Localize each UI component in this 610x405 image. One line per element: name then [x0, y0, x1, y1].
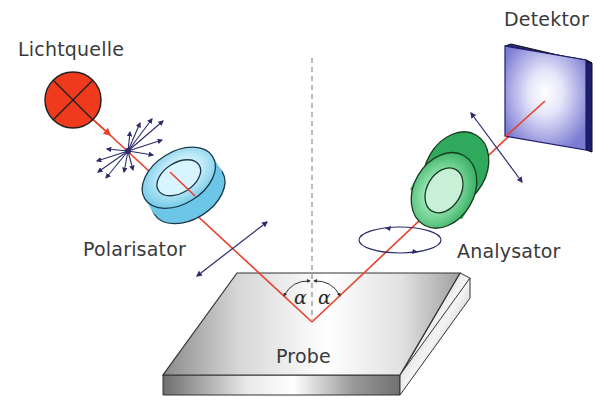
light-source-label: Lichtquelle	[18, 38, 124, 60]
analyzer-label: Analysator	[457, 240, 561, 262]
linear-polarization-arrow	[197, 222, 267, 276]
ellipsometry-diagram: Lichtquelle Polarisator Analysator Detek…	[0, 0, 610, 405]
sample-slab	[163, 273, 470, 395]
incidence-angle-label: α	[294, 286, 307, 308]
detector-label: Detektor	[504, 8, 589, 30]
light-source-icon	[45, 72, 101, 128]
reflection-angle-label: α	[318, 286, 331, 308]
detector-icon	[505, 44, 592, 152]
polarizer-label: Polarisator	[83, 238, 186, 260]
analyzer-icon	[398, 120, 502, 240]
sample-label: Probe	[276, 345, 331, 367]
